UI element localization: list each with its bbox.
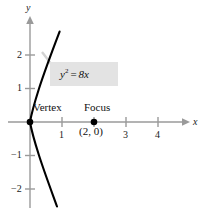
x-tick-label-3: 3 [123,130,128,140]
x-tick-label-4: 4 [155,130,160,140]
y-tick-label-2: 2 [17,50,22,60]
focus-label: Focus [84,102,110,113]
y-tick-label-minus-2: −2 [11,184,22,194]
y-axis-arrowhead [26,16,34,24]
equation-operator: = [68,68,78,80]
y-tick-label-minus-1: −1 [11,150,22,160]
parabola-figure: y2=8x y x 1 3 4 2 1 −1 −2 Vertex Focus (… [0,0,204,214]
parabola-curve [30,32,60,207]
y-axis-label: y [26,3,30,13]
y-tick-label-1: 1 [17,83,22,93]
x-axis-label: x [193,117,197,127]
equation-right-side: 8x [79,68,89,80]
x-axis-arrowhead [182,118,190,126]
vertex-label: Vertex [33,102,62,113]
equation-label: y2=8x [60,67,89,80]
vertex-point [27,119,34,126]
x-tick-label-1: 1 [59,130,64,140]
focus-coordinates-label: (2, 0) [79,126,103,137]
